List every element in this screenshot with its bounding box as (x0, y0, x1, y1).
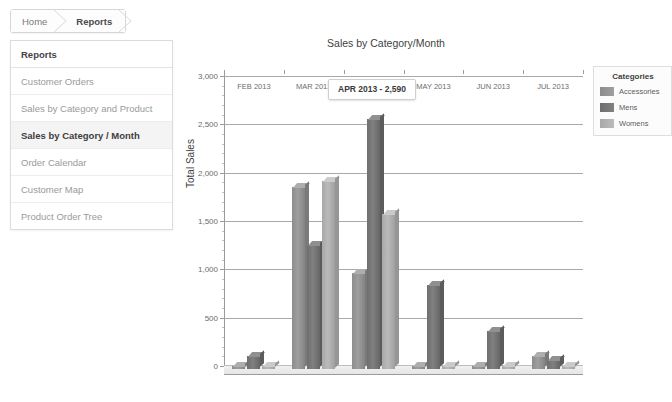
legend-item-accessories[interactable]: Accessories (600, 87, 666, 96)
sidebar-item-customer-orders[interactable]: Customer Orders (11, 68, 172, 95)
gridline (224, 221, 583, 222)
bar-front-face (352, 273, 365, 369)
y-axis-tick-label: 3,000 (198, 72, 218, 81)
gridline (224, 269, 583, 270)
bar[interactable] (232, 366, 245, 369)
legend-item-mens[interactable]: Mens (600, 103, 666, 112)
bar[interactable] (442, 366, 455, 369)
bar[interactable] (472, 366, 485, 369)
sidebar-item-label: Order Calendar (21, 157, 86, 168)
bar-front-face (247, 356, 260, 369)
sidebar-item-label: Sales by Category / Month (21, 130, 140, 141)
x-axis-tick-label: FEB 2013 (224, 82, 284, 91)
y-axis-tick-label: 1,000 (198, 265, 218, 274)
sidebar-item-customer-map[interactable]: Customer Map (11, 176, 172, 203)
bar-front-face (487, 331, 500, 369)
sidebar-item-label: Sales by Category and Product (21, 103, 153, 114)
bar[interactable] (547, 360, 560, 369)
legend-swatch (600, 103, 614, 112)
bar[interactable] (427, 285, 440, 369)
bar-group (404, 285, 464, 369)
bar[interactable] (307, 245, 320, 369)
bar[interactable] (322, 181, 335, 370)
y-axis-tick-label: 2,000 (198, 168, 218, 177)
x-axis-tick (224, 70, 225, 74)
bar[interactable] (487, 331, 500, 369)
legend-item-label: Womens (619, 119, 648, 128)
bar[interactable] (382, 214, 395, 369)
sidebar-item-label: Customer Orders (21, 76, 94, 87)
bar-group (523, 356, 583, 369)
bar-front-face (382, 214, 395, 369)
legend-item-label: Accessories (619, 87, 659, 96)
y-axis-tick-label: 1,500 (198, 217, 218, 226)
y-axis-line (224, 70, 225, 375)
x-axis-tick (404, 70, 405, 74)
legend-item-womens[interactable]: Womens (600, 119, 666, 128)
breadcrumb-item-label: Home (22, 16, 47, 27)
chart-title: Sales by Category/Month (176, 37, 596, 49)
y-axis-tick-label: 0 (214, 362, 218, 371)
bar-front-face (547, 360, 560, 369)
bar-front-face (307, 245, 320, 369)
legend-swatch (600, 119, 614, 128)
y-axis-title: Total Sales (185, 139, 196, 188)
legend-item-label: Mens (619, 103, 637, 112)
bar-group (463, 331, 523, 369)
sidebar-item-sales-by-category-month[interactable]: Sales by Category / Month (11, 122, 172, 149)
sidebar-item-label: Product Order Tree (21, 211, 102, 222)
legend-rows: AccessoriesMensWomens (600, 87, 666, 128)
gridline (224, 173, 583, 174)
reports-nav-list: Customer OrdersSales by Category and Pro… (11, 68, 172, 229)
chart-legend: Categories AccessoriesMensWomens (593, 66, 672, 136)
bar[interactable] (502, 366, 515, 369)
sidebar-item-sales-by-category-and-product[interactable]: Sales by Category and Product (11, 95, 172, 122)
reports-panel: Reports Customer OrdersSales by Category… (10, 40, 173, 230)
bar[interactable] (292, 187, 305, 369)
x-axis-tick-label: JUN 2013 (463, 82, 523, 91)
chart-area: Sales by Category/Month Total Sales 0500… (176, 33, 661, 398)
bar[interactable] (247, 356, 260, 369)
breadcrumb-item-reports[interactable]: Reports (60, 10, 125, 32)
sidebar-item-label: Customer Map (21, 184, 83, 195)
chart-tooltip: APR 2013 - 2,590 (328, 79, 416, 100)
bar-group (284, 181, 344, 370)
bar-group (224, 356, 284, 369)
bar[interactable] (367, 119, 380, 369)
x-axis-tick (463, 70, 464, 74)
bar[interactable] (352, 273, 365, 369)
breadcrumb-item-home[interactable]: Home (11, 10, 60, 32)
bar[interactable] (262, 366, 275, 369)
bar-front-face (532, 356, 545, 369)
x-axis-tick (583, 70, 584, 74)
x-axis-line (224, 374, 583, 375)
x-axis-tick-label: JUL 2013 (523, 82, 583, 91)
bar-side-face (440, 279, 444, 367)
sidebar-item-product-order-tree[interactable]: Product Order Tree (11, 203, 172, 229)
sidebar-item-order-calendar[interactable]: Order Calendar (11, 149, 172, 176)
bar-front-face (367, 119, 380, 369)
bar-front-face (427, 285, 440, 369)
chart-plot: Total Sales 05001,0001,5002,0002,5003,00… (224, 70, 583, 375)
breadcrumb: HomeReports (10, 9, 126, 33)
bar-side-face (500, 326, 504, 367)
y-axis-tick-label: 500 (205, 313, 218, 322)
bar-front-face (322, 181, 335, 370)
bar-group (344, 119, 404, 369)
bar-side-face (335, 175, 339, 367)
breadcrumb-chevron-icon (118, 10, 132, 32)
y-axis-tick-label: 2,500 (198, 120, 218, 129)
bar-side-face (395, 209, 399, 367)
gridline (224, 124, 583, 125)
legend-title: Categories (600, 72, 666, 81)
bar[interactable] (412, 366, 425, 369)
panel-title: Reports (11, 41, 172, 68)
x-axis-tick (523, 70, 524, 74)
x-axis-tick (284, 70, 285, 74)
legend-swatch (600, 87, 614, 96)
bar[interactable] (562, 366, 575, 369)
x-axis-tick (344, 70, 345, 74)
gridline (224, 76, 583, 77)
bar[interactable] (532, 356, 545, 369)
bar-front-face (292, 187, 305, 369)
